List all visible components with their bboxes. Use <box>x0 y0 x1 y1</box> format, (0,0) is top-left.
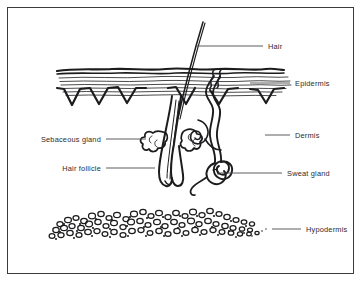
label-sebaceous-gland: Sebaceous gland <box>41 135 101 144</box>
skin-cross-section-figure: Hair Epidermis Dermis Sweat gland Hypode… <box>0 0 363 283</box>
sebaceous-gland-lobes <box>141 120 221 152</box>
label-hypodermis: Hypodermis <box>306 225 348 234</box>
label-hair: Hair <box>268 42 283 51</box>
label-epidermis: Epidermis <box>295 79 330 88</box>
hypodermis-fat <box>49 208 267 240</box>
label-dermis: Dermis <box>295 131 320 140</box>
label-sweat-gland: Sweat gland <box>287 169 330 178</box>
hair-follicle-tube <box>159 96 183 186</box>
epidermis-layer <box>57 68 291 105</box>
skin-diagram-page: Hair Epidermis Dermis Sweat gland Hypode… <box>0 0 363 283</box>
label-hair-follicle: Hair follicle <box>62 164 101 173</box>
